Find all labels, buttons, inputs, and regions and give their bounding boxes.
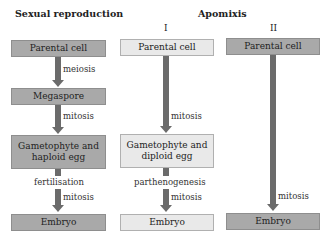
mitosis-label: mitosis bbox=[171, 111, 202, 121]
mitosis-label: mitosis bbox=[278, 191, 309, 201]
apomixis1-parental-cell-box: Parental cell bbox=[120, 39, 214, 56]
arrow-shaft bbox=[55, 189, 61, 206]
arrow-head-icon bbox=[160, 205, 172, 212]
arrow-shaft bbox=[163, 168, 169, 176]
apomixis2-embryo-box: Embryo bbox=[226, 213, 320, 230]
arrow-shaft bbox=[163, 56, 169, 127]
fertilisation-label: fertilisation bbox=[34, 177, 84, 187]
arrow-shaft bbox=[163, 189, 169, 206]
arrow-shaft bbox=[55, 105, 61, 128]
meiosis-label: meiosis bbox=[63, 64, 95, 74]
mitosis-label: mitosis bbox=[63, 111, 94, 121]
arrow-head-icon bbox=[52, 205, 64, 212]
apomixis1-gametophyte-box: Gametophyte and diploid egg bbox=[120, 134, 214, 168]
parthenogenesis-label: parthenogenesis bbox=[134, 177, 206, 187]
sexual-parental-cell-box: Parental cell bbox=[11, 40, 106, 57]
sexual-gametophyte-box: Gametophyte and haploid egg bbox=[11, 135, 106, 169]
arrow-head-icon bbox=[52, 127, 64, 134]
arrow-shaft bbox=[55, 169, 61, 176]
apomixis-title: Apomixis bbox=[198, 8, 247, 19]
apomixis1-embryo-box: Embryo bbox=[120, 214, 214, 231]
arrow-head-icon bbox=[160, 126, 172, 133]
sexual-embryo-box: Embryo bbox=[11, 214, 106, 231]
sexual-reproduction-title: Sexual reproduction bbox=[15, 8, 123, 19]
apomixis-type-1-label: I bbox=[164, 23, 168, 33]
arrow-head-icon bbox=[52, 80, 64, 87]
mitosis-label: mitosis bbox=[171, 192, 202, 202]
arrow-head-icon bbox=[267, 204, 279, 211]
apomixis2-parental-cell-box: Parental cell bbox=[226, 38, 320, 55]
sexual-megaspore-box: Megaspore bbox=[11, 88, 106, 105]
arrow-shaft bbox=[55, 57, 61, 81]
apomixis-type-2-label: II bbox=[270, 23, 277, 33]
arrow-shaft bbox=[270, 55, 276, 205]
mitosis-label: mitosis bbox=[63, 192, 94, 202]
